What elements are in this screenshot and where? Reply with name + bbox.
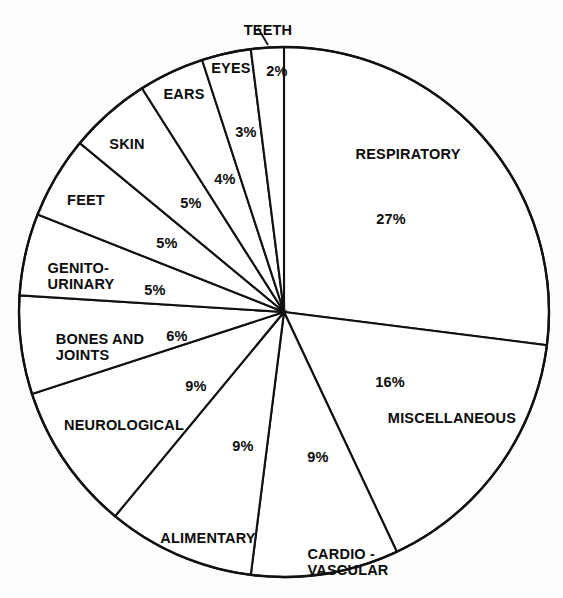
slice-label-bones-and-joints: BONES ANDJOINTS xyxy=(56,332,144,363)
slice-label-neurological: NEUROLOGICAL xyxy=(64,418,184,434)
slice-value-respiratory: 27% xyxy=(376,212,406,228)
slice-value-eyes: 3% xyxy=(235,125,256,141)
slice-value-cardiovascular: 9% xyxy=(307,450,328,466)
genito-label-line2: URINARY xyxy=(48,275,115,291)
slice-label-respiratory: RESPIRATORY xyxy=(355,147,460,163)
slice-label-alimentary: ALIMENTARY xyxy=(160,531,255,547)
pie-slices-group xyxy=(19,47,549,577)
bones-label-line1: BONES AND xyxy=(56,331,144,347)
slice-value-alimentary: 9% xyxy=(232,439,253,455)
pie-slice-respiratory xyxy=(284,47,549,345)
slice-label-ears: EARS xyxy=(163,87,204,103)
bones-label-line2: JOINTS xyxy=(56,346,110,362)
cardiovascular-label-line2: VASCULAR xyxy=(307,561,388,577)
slice-value-ears: 4% xyxy=(214,172,235,188)
genito-label-line1: GENITO- xyxy=(48,260,110,276)
cardiovascular-label-line1: CARDIO - xyxy=(307,546,375,562)
slice-label-skin: SKIN xyxy=(109,137,144,153)
pie-chart-figure: RESPIRATORY 27% MISCELLANEOUS 16% CARDIO… xyxy=(0,0,563,598)
slice-label-teeth: TEETH xyxy=(244,23,293,39)
slice-label-cardiovascular: CARDIO -VASCULAR xyxy=(307,547,388,578)
slice-label-miscellaneous: MISCELLANEOUS xyxy=(388,411,516,427)
slice-value-genito-urinary: 5% xyxy=(144,283,165,299)
pie-chart-svg xyxy=(0,0,563,598)
slice-value-skin: 5% xyxy=(180,196,201,212)
slice-value-teeth: 2% xyxy=(266,64,287,80)
slice-label-feet: FEET xyxy=(67,193,105,209)
slice-value-neurological: 9% xyxy=(185,379,206,395)
slice-label-genito-urinary: GENITO-URINARY xyxy=(48,261,115,292)
slice-value-miscellaneous: 16% xyxy=(375,375,405,391)
slice-value-feet: 5% xyxy=(156,236,177,252)
slice-label-eyes: EYES xyxy=(211,61,251,77)
slice-value-bones-and-joints: 6% xyxy=(166,329,187,345)
